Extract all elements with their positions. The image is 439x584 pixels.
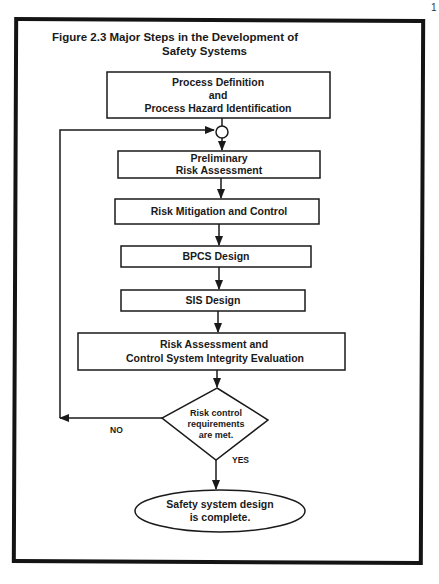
node-end-line1: Safety system design [166,498,273,510]
node-process-definition-line3: Process Hazard Identification [144,102,291,114]
node-process-definition-line1: Process Definition [172,76,264,88]
flowchart: Process Definition and Process Hazard Id… [0,0,439,584]
node-sis-label: SIS Design [186,294,241,306]
node-decision-line3: are met. [199,430,234,440]
node-bpcs-label: BPCS Design [182,250,249,262]
edge-label-no: NO [110,425,123,435]
junction-circle [216,126,228,138]
node-bpcs-design: BPCS Design [121,246,311,267]
node-decision-line1: Risk control [190,408,242,418]
node-risk-mitigation-label: Risk Mitigation and Control [151,205,288,217]
node-sis-design: SIS Design [121,290,305,311]
node-decision-line2: requirements [187,419,244,429]
node-risk-assessment-line1: Risk Assessment and [160,338,268,350]
node-process-definition-line2: and [209,89,228,101]
node-preliminary-line2: Risk Assessment [176,164,263,176]
node-preliminary-line1: Preliminary [190,152,247,164]
node-process-definition: Process Definition and Process Hazard Id… [107,72,330,118]
node-risk-mitigation: Risk Mitigation and Control [115,199,319,224]
node-end: Safety system design is complete. [135,490,305,532]
node-risk-assessment-integrity: Risk Assessment and Control System Integ… [78,333,345,370]
edge-label-yes: YES [232,455,249,465]
node-preliminary-risk-assessment: Preliminary Risk Assessment [118,151,320,178]
node-decision: Risk control requirements are met. [162,388,268,460]
node-end-line2: is complete. [190,511,251,523]
node-risk-assessment-line2: Control System Integrity Evaluation [126,352,304,364]
